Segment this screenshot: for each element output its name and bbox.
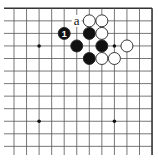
board-stones: 1 [58, 15, 133, 65]
black-stone [96, 40, 108, 52]
move-number-label: 1 [62, 29, 67, 39]
black-stone [83, 53, 95, 65]
black-stone [71, 40, 83, 52]
board-marks: a [72, 13, 82, 28]
black-stone [83, 27, 95, 39]
white-stone [96, 15, 108, 27]
white-stone [108, 53, 120, 65]
white-stone [96, 53, 108, 65]
point-label-a: a [74, 13, 80, 28]
white-stone [83, 15, 95, 27]
white-stone [121, 40, 133, 52]
star-point-icon [113, 44, 117, 48]
white-stone [96, 27, 108, 39]
board-grid [4, 8, 152, 155]
go-board-diagram: a 1 [0, 0, 158, 162]
star-point-icon [113, 119, 117, 123]
star-point-icon [37, 44, 41, 48]
star-point-icon [37, 119, 41, 123]
